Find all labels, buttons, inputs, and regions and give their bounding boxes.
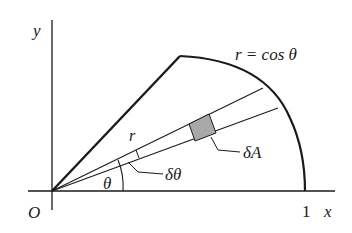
dtheta-leader	[128, 162, 163, 174]
x-axis-label: x	[323, 202, 332, 221]
polar-area-diagram: y x O 1 r = cos θ θ r δθ δA	[0, 0, 352, 233]
curve-label: r = cos θ	[235, 45, 297, 64]
theta-label: θ	[103, 174, 111, 193]
y-axis-label: y	[31, 21, 41, 40]
dA-label: δA	[243, 143, 262, 162]
radius-label: r	[129, 127, 136, 144]
area-element	[189, 114, 216, 141]
boundary-ray	[52, 56, 180, 191]
origin-label: O	[28, 203, 40, 222]
dA-leader	[211, 137, 240, 152]
radius-tick	[136, 150, 139, 158]
upper-ray	[52, 88, 263, 191]
x-tick-label: 1	[302, 202, 311, 221]
dtheta-label: δθ	[165, 165, 181, 184]
